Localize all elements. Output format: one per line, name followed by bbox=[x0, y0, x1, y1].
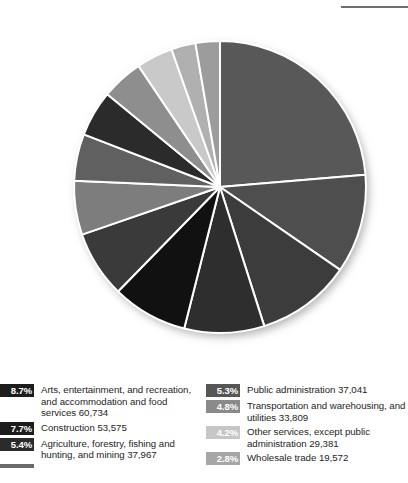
legend-swatch: 2.8% bbox=[206, 452, 240, 465]
legend-swatch: 8.7% bbox=[0, 384, 34, 397]
legend-swatch bbox=[0, 464, 34, 468]
legend-item: 5.3%Public administration 37,041 bbox=[206, 384, 408, 397]
legend-swatch: 7.7% bbox=[0, 422, 34, 435]
chart-legend: 8.7%Arts, entertainment, and recreation,… bbox=[0, 384, 408, 483]
legend-swatch: 5.4% bbox=[0, 438, 34, 451]
legend-label: Public administration 37,041 bbox=[247, 384, 367, 396]
legend-item: 5.4%Agriculture, forestry, fishing and h… bbox=[0, 438, 196, 461]
pie-slice bbox=[220, 41, 365, 187]
legend-item: 4.8%Transportation and warehousing, and … bbox=[206, 400, 408, 423]
legend-label: Other services, except public administra… bbox=[247, 426, 408, 449]
legend-label: Agriculture, forestry, fishing and hunti… bbox=[41, 438, 196, 461]
legend-label: Transportation and warehousing, and util… bbox=[247, 400, 408, 423]
legend-item: 2.8%Wholesale trade 19,572 bbox=[206, 452, 408, 465]
legend-column-right: 5.3%Public administration 37,0414.8%Tran… bbox=[206, 384, 408, 468]
pie-chart bbox=[0, 0, 408, 378]
legend-label: Wholesale trade 19,572 bbox=[247, 452, 348, 464]
legend-item: 4.2%Other services, except public admini… bbox=[206, 426, 408, 449]
legend-swatch: 4.2% bbox=[206, 426, 240, 439]
legend-column-left: 8.7%Arts, entertainment, and recreation,… bbox=[0, 384, 196, 471]
pie-slice-group bbox=[74, 41, 366, 333]
legend-item bbox=[0, 464, 196, 468]
legend-swatch: 4.8% bbox=[206, 400, 240, 413]
legend-label: Construction 53,575 bbox=[41, 422, 127, 434]
pie-chart-svg bbox=[0, 0, 408, 378]
legend-item: 7.7%Construction 53,575 bbox=[0, 422, 196, 435]
legend-swatch: 5.3% bbox=[206, 384, 240, 397]
legend-label: Arts, entertainment, and recreation, and… bbox=[41, 384, 196, 419]
legend-item: 8.7%Arts, entertainment, and recreation,… bbox=[0, 384, 196, 419]
